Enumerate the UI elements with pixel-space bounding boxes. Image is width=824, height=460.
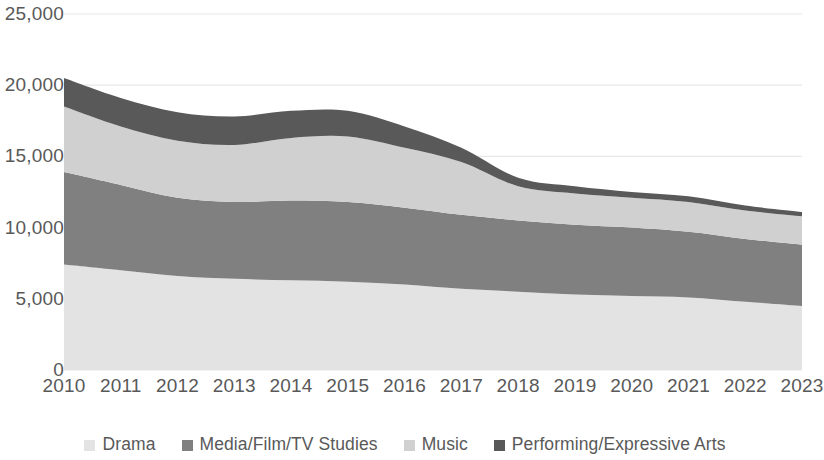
x-axis-tick-label: 2010 [42,376,85,395]
series-bands [64,78,802,370]
x-axis-tick-label: 2018 [497,376,540,395]
legend-item-label: Media/Film/TV Studies [200,436,378,454]
legend-item[interactable]: Performing/Expressive Arts [494,436,726,454]
legend-swatch-icon [404,440,415,451]
x-axis-tick-label: 2013 [213,376,256,395]
legend-item[interactable]: Media/Film/TV Studies [182,436,378,454]
legend-item-label: Performing/Expressive Arts [512,436,726,454]
legend-item-label: Drama [102,436,155,454]
y-axis-tick-label: 5,000 [0,289,64,308]
plot-svg [0,0,810,420]
legend-item-label: Music [422,436,468,454]
x-axis-tick-label: 2023 [780,376,823,395]
x-axis-tick-label: 2015 [326,376,369,395]
legend-swatch-icon [494,440,505,451]
y-axis-tick-label: 25,000 [0,4,64,23]
plot-area [0,0,810,420]
legend-swatch-icon [182,440,193,451]
legend-item[interactable]: Drama [84,436,155,454]
x-axis-tick-label: 2016 [383,376,426,395]
x-axis-tick-label: 2020 [610,376,653,395]
x-axis-tick-label: 2012 [156,376,199,395]
x-axis-tick-label: 2014 [270,376,313,395]
y-axis-tick-label: 15,000 [0,146,64,165]
x-axis-tick-label: 2019 [553,376,596,395]
legend-item[interactable]: Music [404,436,468,454]
x-axis-tick-label: 2021 [667,376,710,395]
chart-legend: DramaMedia/Film/TV StudiesMusicPerformin… [0,430,810,460]
x-axis: 2010201120122013201420152016201720182019… [64,376,802,406]
y-axis-tick-label: 20,000 [0,75,64,94]
x-axis-tick-label: 2022 [724,376,767,395]
x-axis-tick-label: 2017 [440,376,483,395]
legend-swatch-icon [84,440,95,451]
y-axis-tick-label: 10,000 [0,218,64,237]
x-axis-tick-label: 2011 [100,376,142,395]
